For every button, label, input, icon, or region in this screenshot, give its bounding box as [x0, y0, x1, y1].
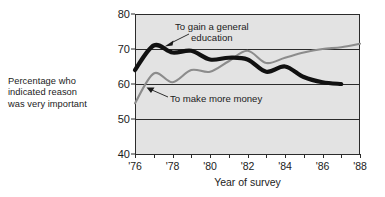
- x-tick-mark-1980: [210, 154, 211, 158]
- annotation-money: To make more money: [170, 93, 262, 104]
- x-tick-mark-1986: [323, 154, 324, 158]
- x-tick-mark-1984: [285, 154, 286, 158]
- y-tick-label-40: 40: [118, 148, 130, 160]
- x-tick-label-1982: '82: [241, 160, 255, 172]
- x-tick-mark-1982: [248, 154, 249, 158]
- y-tick-label-80: 80: [118, 8, 130, 20]
- x-tick-label-1978: '78: [166, 160, 180, 172]
- y-axis-caption-line-2: indicated reason: [8, 87, 120, 98]
- y-tick-label-50: 50: [118, 113, 130, 125]
- x-tick-mark-1987: [341, 154, 342, 158]
- y-tick-label-70: 70: [118, 43, 130, 55]
- x-tick-label-1980: '80: [203, 160, 217, 172]
- x-tick-mark-1983: [266, 154, 267, 158]
- chart-figure: Percentage who indicated reason was very…: [0, 0, 385, 197]
- x-tick-label-1976: '76: [128, 160, 142, 172]
- x-tick-label-1988: '88: [353, 160, 367, 172]
- x-tick-label-1986: '86: [316, 160, 330, 172]
- y-axis-caption-line-1: Percentage who: [8, 76, 120, 87]
- x-tick-mark-1977: [154, 154, 155, 158]
- x-tick-mark-1988: [360, 154, 361, 158]
- y-tick-label-60: 60: [118, 78, 130, 90]
- annotation-education: To gain a general education: [175, 21, 249, 43]
- x-tick-mark-1979: [191, 154, 192, 158]
- x-tick-mark-1981: [229, 154, 230, 158]
- annotation-education-line-1: To gain a general: [175, 21, 249, 32]
- x-tick-mark-1985: [304, 154, 305, 158]
- y-axis-caption-line-3: was very important: [8, 99, 120, 110]
- x-axis-title: Year of survey: [135, 176, 360, 188]
- x-tick-mark-1976: [135, 154, 136, 158]
- x-tick-mark-1978: [173, 154, 174, 158]
- y-axis-caption: Percentage who indicated reason was very…: [8, 76, 120, 110]
- x-tick-label-1984: '84: [278, 160, 292, 172]
- annotation-education-line-2: education: [175, 32, 249, 43]
